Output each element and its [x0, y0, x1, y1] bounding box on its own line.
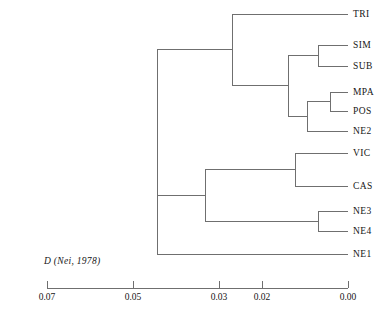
leaf-label-sim: SIM [353, 40, 371, 50]
distance-axis [47, 281, 348, 288]
node-vic-cas [205, 153, 295, 186]
dendrogram-canvas [0, 0, 382, 313]
leaf-label-vic: VIC [353, 148, 371, 158]
leaf-label-cas: CAS [353, 181, 373, 191]
leaf-label-pos: POS [353, 106, 372, 116]
axis-tick-label-0-03: 0.03 [211, 292, 228, 302]
leaf-label-tri: TRI [353, 9, 370, 19]
node-sim-sub [307, 45, 318, 66]
leaf-label-ne1: NE1 [353, 249, 372, 259]
node-ne3-ne4 [205, 211, 318, 231]
node-simsub-mpagrp [232, 56, 307, 117]
axis-tick-label-0-05: 0.05 [125, 292, 142, 302]
leaf-label-mpa: MPA [353, 87, 374, 97]
phylogenetic-tree-figure: TRI SIM SUB MPA POS NE2 VIC CAS NE3 NE4 … [0, 0, 382, 313]
node-mpapos-ne2 [288, 102, 307, 132]
leaf-label-sub: SUB [353, 61, 373, 71]
node-mpa-pos [307, 92, 330, 111]
node-upper-clade [157, 14, 232, 86]
axis-tick-label-0-07: 0.07 [39, 292, 56, 302]
axis-tick-label-0-00: 0.00 [340, 292, 357, 302]
leaf-label-ne3: NE3 [353, 206, 372, 216]
leaf-label-ne4: NE4 [353, 226, 372, 236]
node-lower-clade [157, 170, 205, 222]
axis-tick-label-0-02: 0.02 [254, 292, 271, 302]
leaf-label-ne2: NE2 [353, 126, 372, 136]
axis-caption: D (Nei, 1978) [44, 256, 100, 266]
